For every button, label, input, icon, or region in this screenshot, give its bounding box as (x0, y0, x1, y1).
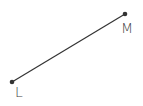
segment-lm (12, 14, 125, 82)
label-l: L (15, 84, 23, 100)
point-m (123, 12, 128, 17)
point-l (10, 80, 15, 85)
label-m: M (121, 20, 133, 36)
diagram-canvas: L M (0, 0, 143, 106)
